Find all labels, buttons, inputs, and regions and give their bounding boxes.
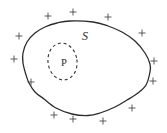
surface-label: S [82,29,88,43]
plus-charge-marker [70,116,76,122]
plus-charge-marker [70,9,76,15]
plus-charge-marker [105,14,111,20]
gaussian-surface-diagram: S P [0,0,167,133]
charge-label: P [61,57,67,68]
plus-charge-markers [11,9,157,124]
plus-charge-marker [150,78,156,84]
plus-charge-marker [129,105,135,111]
plus-charge-marker [45,13,51,19]
diagram-canvas: S P [0,0,167,133]
plus-charge-marker [16,33,22,39]
plus-charge-marker [51,112,57,118]
plus-charge-marker [100,118,106,124]
plus-charge-marker [11,56,17,62]
plus-charge-marker [151,58,157,64]
plus-charge-marker [28,79,34,85]
plus-charge-marker [139,30,145,36]
